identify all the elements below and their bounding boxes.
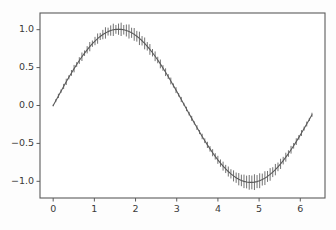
matplotlib-figure: 0123456 1.00.50.0−0.5−1.0 [0,0,336,230]
y-tick-label: −0.5 [11,137,34,148]
x-tick-label: 5 [256,203,262,214]
y-axis-ticks: 1.00.50.0−0.5−1.0 [11,23,40,186]
x-tick-label: 6 [297,203,303,214]
x-axis-ticks: 0123456 [50,198,303,214]
x-tick-label: 2 [133,203,139,214]
x-tick-label: 1 [91,203,97,214]
axes-background [40,13,325,198]
x-tick-label: 4 [215,203,221,214]
x-tick-label: 3 [174,203,180,214]
y-tick-label: 0.5 [19,61,34,72]
y-tick-label: −1.0 [11,175,34,186]
y-tick-label: 1.0 [19,23,34,34]
sine-errorbar-plot: 0123456 1.00.50.0−0.5−1.0 [0,0,336,230]
x-tick-label: 0 [50,203,56,214]
y-tick-label: 0.0 [19,99,34,110]
